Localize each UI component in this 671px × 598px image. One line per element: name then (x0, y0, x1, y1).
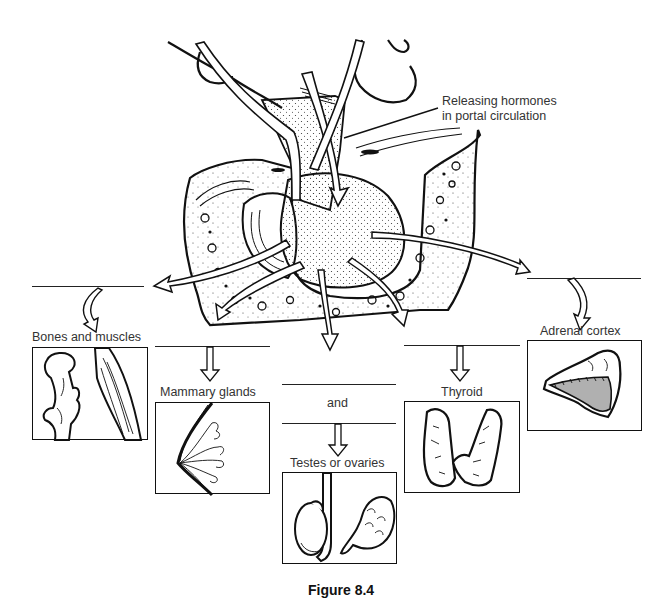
figure-caption: Figure 8.4 (308, 582, 374, 598)
testes-or-ovaries-label: Testes or ovaries (290, 456, 384, 470)
releasing-hormones-callout: Releasing hormones in portal circulation (442, 94, 557, 124)
bones-and-muscles-label: Bones and muscles (32, 330, 141, 344)
callout-line-1: Releasing hormones (442, 94, 557, 109)
thyroid-label: Thyroid (441, 385, 483, 399)
adrenal-cortex-box (527, 340, 642, 431)
callout-line-2: in portal circulation (442, 109, 557, 124)
bone-muscle-drawing (33, 348, 149, 441)
thyroid-drawing (405, 402, 521, 494)
bones-and-muscles-box (32, 347, 148, 440)
and-connector-label: and (327, 396, 348, 410)
adrenal-cortex-label: Adrenal cortex (540, 324, 621, 338)
mammary-gland-drawing (156, 403, 271, 495)
mammary-divider-line (155, 346, 270, 347)
gonads-top-line (282, 384, 396, 385)
bones-divider-line (32, 286, 144, 287)
mammary-glands-label: Mammary glands (160, 385, 256, 399)
testes-or-ovaries-box (282, 472, 397, 564)
callout-leader-line (344, 108, 438, 138)
adrenal-divider-line (527, 278, 641, 279)
thyroid-box (404, 401, 520, 493)
mammary-glands-box (155, 402, 270, 494)
gonads-divider-line (282, 423, 396, 424)
thyroid-divider-line (404, 345, 520, 346)
testes-ovary-drawing (283, 473, 398, 565)
adrenal-gland-drawing (528, 341, 643, 432)
